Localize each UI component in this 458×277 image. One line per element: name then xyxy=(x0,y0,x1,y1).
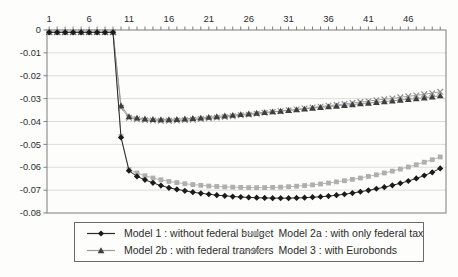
series-model-3 xyxy=(46,29,443,123)
x-axis-tick-label: 1 xyxy=(47,13,52,24)
legend-label-model-3: Model 3 : with Eurobonds xyxy=(279,245,397,256)
chart-legend: Model 1 : without federal budget Model 2… xyxy=(74,222,424,262)
x-axis-tick-label: 6 xyxy=(86,13,91,24)
x-axis-tick-label: 46 xyxy=(403,13,414,24)
y-axis-tick-label: -0.01 xyxy=(20,48,41,58)
legend-item-model-2a: Model 2a : with only federal tax xyxy=(240,228,421,239)
x-axis-tick-label: 16 xyxy=(164,13,175,24)
series-line-model-3 xyxy=(49,32,440,121)
series-line-model-2a xyxy=(49,32,440,187)
x-marker-icon xyxy=(240,245,272,256)
square-marker-icon xyxy=(240,228,272,239)
y-axis-tick-label: -0.07 xyxy=(20,185,41,195)
x-axis-tick-label: 26 xyxy=(243,13,254,24)
legend-item-model-2b: Model 2b : with federal transfers xyxy=(85,245,240,256)
line-chart-plot: 0-0.01-0.02-0.03-0.04-0.05-0.06-0.07-0.0… xyxy=(0,0,458,221)
y-axis-tick-label: -0.04 xyxy=(20,117,41,127)
chart-figure: 0-0.01-0.02-0.03-0.04-0.05-0.06-0.07-0.0… xyxy=(0,0,458,277)
x-axis-tick-label: 36 xyxy=(323,13,334,24)
y-axis-tick-label: -0.03 xyxy=(20,94,41,104)
y-axis-tick-label: 0 xyxy=(36,25,41,35)
x-axis-tick-label: 11 xyxy=(124,13,134,24)
legend-item-model-3: Model 3 : with Eurobonds xyxy=(240,245,421,256)
triangle-marker-icon xyxy=(85,245,117,256)
x-axis-tick-label: 21 xyxy=(204,13,215,24)
series-model-2a xyxy=(47,30,443,190)
x-axis-tick-label: 31 xyxy=(283,13,294,24)
x-axis-tick-label: 41 xyxy=(363,13,374,24)
diamond-marker-icon xyxy=(85,228,117,239)
y-axis-tick-label: -0.05 xyxy=(20,140,41,150)
legend-item-model-1: Model 1 : without federal budget xyxy=(85,228,240,239)
y-axis-tick-label: -0.08 xyxy=(20,208,41,218)
y-axis-tick-label: -0.06 xyxy=(20,162,41,172)
y-axis-tick-label: -0.02 xyxy=(20,71,41,81)
legend-label-model-2a: Model 2a : with only federal tax xyxy=(279,228,424,239)
